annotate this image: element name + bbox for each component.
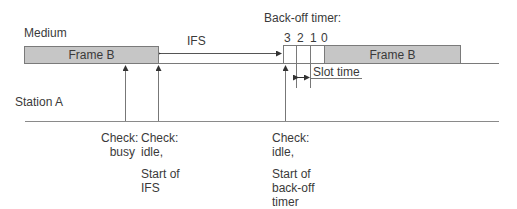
frame-b-after: Frame B [324,45,461,64]
event-check-busy: Check: busy [101,131,135,159]
frame-b-before: Frame B [24,46,159,64]
backoff-slot-1 [310,45,325,64]
event-2-line4: IFS [141,181,180,195]
event-2-line3: Start of [141,167,180,181]
event-3-line2: idle, [272,145,314,159]
event-1-line1: Check: [101,131,135,145]
event-2-line2: idle, [141,145,180,159]
event-3-line5: timer [272,195,314,209]
event-2-line1: Check: [141,131,180,145]
slot-time-label: Slot time [313,65,360,79]
event-check-idle-backoff: Check: idle, Start of back-off timer [272,131,314,209]
diagram-lines [0,0,517,209]
event-1-line2: busy [101,145,135,159]
backoff-slot-3 [283,45,297,64]
event-3-line1: Check: [272,131,314,145]
backoff-slot-2 [296,45,311,64]
event-check-idle-ifs: Check: idle, Start of IFS [141,131,180,195]
event-3-line3: Start of [272,167,314,181]
event-3-line4: back-off [272,181,314,195]
